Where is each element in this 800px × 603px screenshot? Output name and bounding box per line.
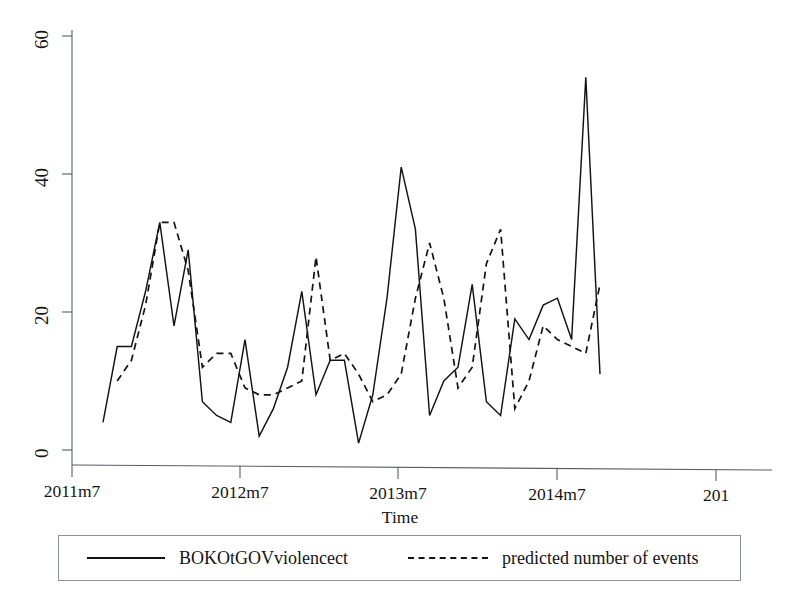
- x-tick-label-2013m7: 2013m7: [369, 483, 427, 503]
- series-line-predicted: [117, 222, 600, 408]
- x-tick-label-2015m7: 201: [703, 485, 729, 505]
- legend-entry-observed: BOKOtGOVviolencect: [87, 548, 348, 569]
- y-tick-label-60: 60: [31, 30, 52, 49]
- legend-label-observed: BOKOtGOVviolencect: [179, 548, 348, 569]
- x-axis-title: Time: [382, 507, 419, 527]
- x-tick-label-2011m7: 2011m7: [44, 481, 101, 501]
- y-tick-label-0: 0: [31, 449, 52, 459]
- legend-label-predicted: predicted number of events: [502, 548, 698, 569]
- chart-legend: BOKOtGOVviolencect predicted number of e…: [58, 535, 741, 581]
- y-tick-label-20: 20: [31, 306, 52, 325]
- x-tick-label-2012m7: 2012m7: [211, 482, 269, 502]
- plot-canvas: 0 20 40 60 2011m7 2012m7 2013m7 2014m7 2…: [0, 0, 800, 603]
- legend-swatch-dashed-icon: [408, 557, 488, 559]
- legend-entry-predicted: predicted number of events: [408, 548, 698, 569]
- chart-figure: 0 20 40 60 2011m7 2012m7 2013m7 2014m7 2…: [0, 0, 800, 603]
- x-axis-line: [72, 465, 772, 470]
- legend-swatch-solid-icon: [87, 557, 165, 559]
- x-tick-label-2014m7: 2014m7: [528, 484, 586, 504]
- y-tick-label-40: 40: [31, 168, 52, 187]
